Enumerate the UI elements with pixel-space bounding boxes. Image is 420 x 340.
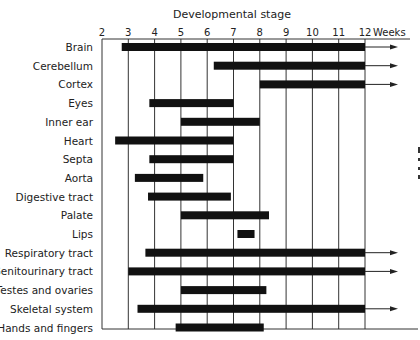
arrowhead-icon <box>390 250 398 255</box>
row-label: Cortex <box>58 78 93 90</box>
arrowhead-icon <box>390 45 398 50</box>
x-tick-label: 8 <box>257 27 263 38</box>
arrowhead-icon <box>390 269 398 274</box>
row-label: Brain <box>65 41 93 53</box>
row-label: Heart <box>64 135 93 147</box>
x-tick-label: 5 <box>178 27 184 38</box>
bar-skeletal-system <box>138 305 365 313</box>
row-label: Eyes <box>68 97 93 109</box>
bar-heart <box>115 137 233 145</box>
arrowhead-icon <box>390 306 398 311</box>
row-label: Skeletal system <box>10 303 93 315</box>
bar-genitourinary-tract <box>128 267 365 275</box>
x-tick-label: 9 <box>283 27 289 38</box>
bar-respiratory-tract <box>145 249 365 257</box>
x-tick-label: 3 <box>125 27 131 38</box>
row-label: Septa <box>63 153 93 165</box>
x-tick-label: 10 <box>306 27 319 38</box>
chart-title: Developmental stage <box>173 8 291 21</box>
row-label: Aorta <box>65 172 93 184</box>
bar-testes-and-ovaries <box>181 286 266 294</box>
developmental-stage-chart: Developmental stage 23456789101112 Weeks… <box>0 0 420 340</box>
arrowhead-icon <box>390 63 398 68</box>
x-tick-label: 12 <box>359 27 372 38</box>
x-tick-label: 11 <box>332 27 345 38</box>
bar-brain <box>122 43 365 51</box>
bar-lips <box>237 230 254 238</box>
x-axis-label: Weeks <box>373 27 406 38</box>
bar-digestive-tract <box>148 193 231 201</box>
bar-inner-ear <box>181 118 260 126</box>
row-label: Palate <box>61 209 93 221</box>
row-label: Genitourinary tract <box>0 265 93 277</box>
row-label: Hands and fingers <box>0 322 93 334</box>
bar-cerebellum <box>214 62 365 70</box>
bar-septa <box>149 155 233 163</box>
row-label: Respiratory tract <box>5 247 93 259</box>
x-tick-label: 4 <box>151 27 157 38</box>
row-label: Cerebellum <box>33 60 93 72</box>
x-tick-label: 2 <box>99 27 105 38</box>
bar-eyes <box>149 99 233 107</box>
x-tick-label: 6 <box>204 27 210 38</box>
row-label: Testes and ovaries <box>0 284 93 296</box>
arrowhead-icon <box>390 82 398 87</box>
row-label: Digestive tract <box>16 191 93 203</box>
x-tick-label: 7 <box>230 27 236 38</box>
bar-hands-and-fingers <box>176 324 264 332</box>
bar-palate <box>181 211 269 219</box>
bar-cortex <box>260 80 365 88</box>
row-label: Inner ear <box>45 116 93 128</box>
bar-aorta <box>135 174 203 182</box>
row-label: Lips <box>72 228 93 240</box>
